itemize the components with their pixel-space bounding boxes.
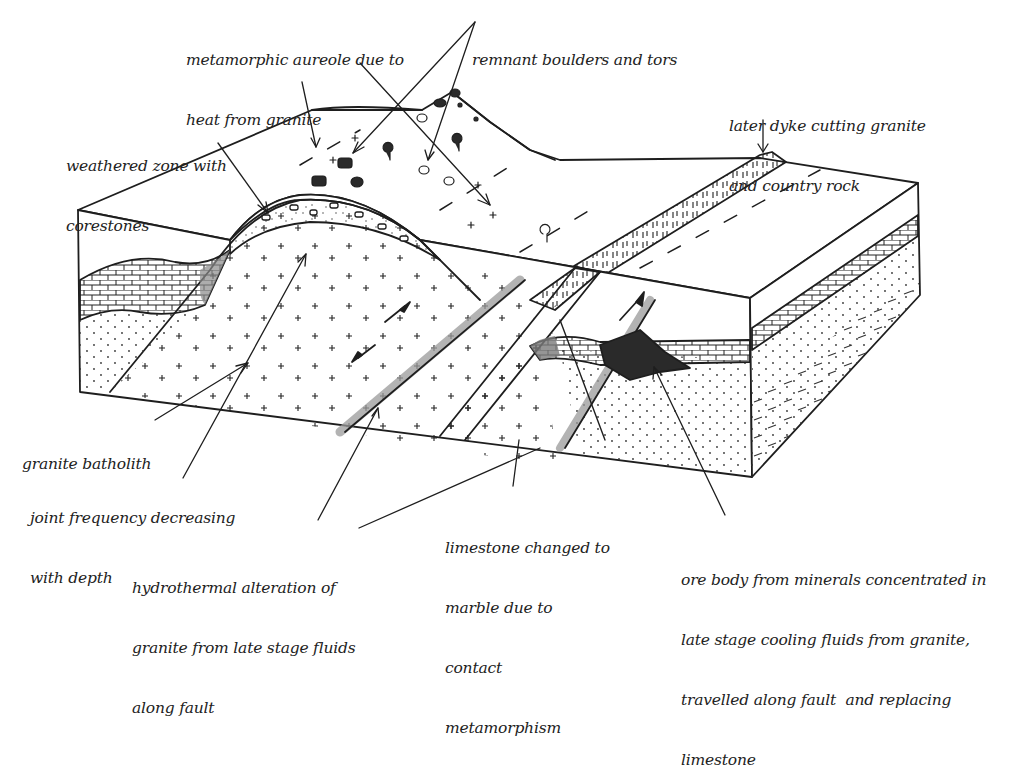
label-line: limestone changed to [445,538,610,558]
label-line: along fault [132,698,355,718]
label-line: metamorphic aureole due to [186,50,404,70]
label-line: and country rock [729,176,926,196]
label-weathered-zone: weathered zone with corestones [66,116,227,256]
label-line: travelled along fault and replacing [681,690,986,710]
label-line: marble due to [445,598,610,618]
label-line: late stage cooling fluids from granite, [681,630,986,650]
label-later-dyke: later dyke cutting granite and country r… [729,76,926,216]
label-line: contact [445,658,610,678]
label-line: weathered zone with [66,156,227,176]
label-line: ore body from minerals concentrated in [681,570,986,590]
label-ore-body: ore body from minerals concentrated in l… [681,530,986,769]
label-limestone-marble: limestone changed to marble due to conta… [445,498,610,758]
label-line: limestone [681,750,986,769]
label-line: corestones [66,216,227,236]
label-hydrothermal-alteration: hydrothermal alteration of granite from … [132,538,355,738]
label-line: hydrothermal alteration of [132,578,355,598]
label-line: remnant boulders and tors [472,50,677,70]
label-line: granite from late stage fluids [132,638,355,658]
label-line: joint frequency decreasing [30,508,235,528]
label-remnant-boulders: remnant boulders and tors [472,10,677,90]
label-line: later dyke cutting granite [729,116,926,136]
label-line: metamorphism [445,718,610,738]
